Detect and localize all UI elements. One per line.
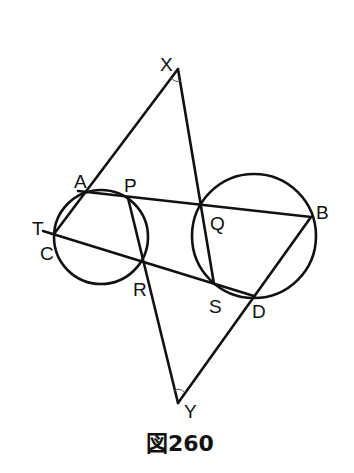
line-p-r-y xyxy=(128,198,178,403)
small-circle xyxy=(54,190,148,284)
label-a: A xyxy=(74,171,87,192)
line-x-q-s xyxy=(178,69,214,284)
geometry-figure: X A P Q B T C R S D Y 図260 xyxy=(0,0,354,473)
label-d: D xyxy=(252,301,266,322)
figure-caption: 図260 xyxy=(146,431,214,456)
line-b-d-y xyxy=(178,217,311,403)
label-r: R xyxy=(133,279,147,300)
line-a-p-q-b xyxy=(78,191,311,217)
label-q: Q xyxy=(210,213,225,234)
label-t: T xyxy=(32,218,44,239)
label-x: X xyxy=(160,54,173,75)
label-y: Y xyxy=(184,401,197,422)
label-b: B xyxy=(316,202,329,223)
label-c: C xyxy=(40,243,54,264)
label-p: P xyxy=(124,175,137,196)
line-x-a-c xyxy=(54,69,178,234)
label-s: S xyxy=(209,296,222,317)
